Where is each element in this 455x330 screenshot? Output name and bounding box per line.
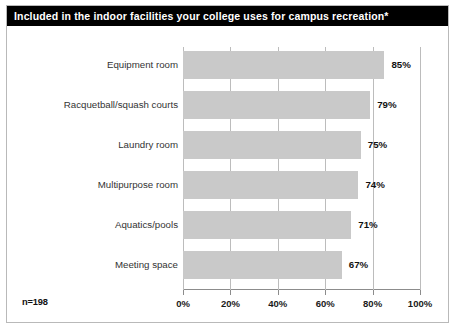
x-axis-line bbox=[183, 289, 421, 290]
gridline-80 bbox=[373, 47, 374, 290]
x-axis-tick-label: 100% bbox=[408, 298, 432, 309]
x-axis-tick-label: 0% bbox=[176, 298, 190, 309]
category-label: Meeting space bbox=[115, 259, 178, 270]
x-axis-tick bbox=[183, 290, 184, 295]
x-axis-tick bbox=[373, 290, 374, 295]
x-axis-tick bbox=[420, 290, 421, 295]
bar-value-label: 79% bbox=[377, 99, 396, 110]
chart-figure: Included in the indoor facilities your c… bbox=[0, 0, 455, 330]
bar bbox=[183, 251, 342, 279]
category-label: Racquetball/squash courts bbox=[64, 99, 178, 110]
bar-value-label: 74% bbox=[365, 179, 384, 190]
x-axis-tick-label: 20% bbox=[221, 298, 240, 309]
x-axis-tick-label: 80% bbox=[363, 298, 382, 309]
plot-area: 0%20%40%60%80%100%Equipment room85%Racqu… bbox=[0, 0, 455, 330]
bar-value-label: 75% bbox=[368, 139, 387, 150]
category-label: Aquatics/pools bbox=[115, 219, 178, 230]
bar bbox=[183, 131, 361, 159]
bar-value-label: 85% bbox=[391, 59, 410, 70]
x-axis-tick bbox=[230, 290, 231, 295]
x-axis-tick bbox=[325, 290, 326, 295]
bar-value-label: 67% bbox=[349, 259, 368, 270]
gridline-100 bbox=[420, 47, 421, 290]
category-label: Multipurpose room bbox=[98, 179, 178, 190]
bar bbox=[183, 211, 351, 239]
bar bbox=[183, 171, 358, 199]
x-axis-tick bbox=[278, 290, 279, 295]
category-label: Laundry room bbox=[118, 139, 178, 150]
bar bbox=[183, 51, 384, 79]
sample-size-annotation: n=198 bbox=[22, 297, 48, 307]
bar bbox=[183, 91, 370, 119]
x-axis-tick-label: 60% bbox=[316, 298, 335, 309]
category-label: Equipment room bbox=[107, 59, 178, 70]
bar-value-label: 71% bbox=[358, 219, 377, 230]
x-axis-tick-label: 40% bbox=[268, 298, 287, 309]
